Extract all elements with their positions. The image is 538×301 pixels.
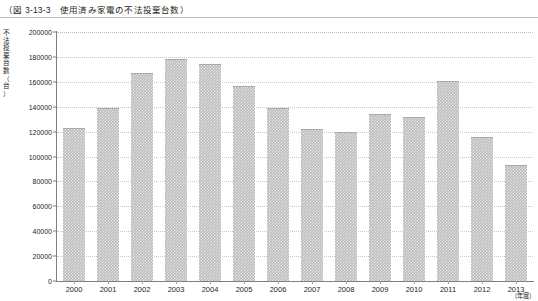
bar	[301, 129, 322, 281]
x-axis-tick-label: 2002	[134, 285, 151, 294]
bar	[437, 81, 458, 281]
bar	[97, 108, 118, 281]
y-axis-tick-label: 180000	[29, 53, 52, 60]
gridline	[57, 132, 533, 133]
y-axis-tick-label: 160000	[29, 78, 52, 85]
x-axis-line	[56, 281, 534, 282]
x-axis-tick-mark	[244, 281, 245, 284]
bar	[267, 108, 288, 281]
gridline	[57, 32, 533, 33]
bar	[403, 117, 424, 281]
bar	[233, 86, 254, 281]
gridline	[57, 82, 533, 83]
gridline	[57, 256, 533, 257]
bar	[505, 165, 526, 281]
y-axis-tick-label: 140000	[29, 103, 52, 110]
x-axis-tick-label: 2009	[372, 285, 389, 294]
y-axis-tick-label: 60000	[33, 203, 52, 210]
x-axis-tick-mark	[414, 281, 415, 284]
figure-container: （図 3-13-3 使用済み家電の不法投棄台数） 不法投棄台数（台） 02000…	[0, 0, 538, 301]
x-axis-tick-mark	[312, 281, 313, 284]
bar	[335, 132, 356, 281]
y-axis-tick-label: 120000	[29, 128, 52, 135]
y-axis-tick-group: 0200004000060000800001000001200001400001…	[0, 0, 56, 301]
x-axis-unit-label: （年度）	[511, 291, 535, 300]
gridline	[57, 107, 533, 108]
y-axis-tick-label: 80000	[33, 178, 52, 185]
x-axis-tick-mark	[108, 281, 109, 284]
x-axis-tick-mark	[346, 281, 347, 284]
x-axis-tick-label: 2012	[474, 285, 491, 294]
y-axis-tick-label: 100000	[29, 153, 52, 160]
x-axis-tick-label: 2003	[168, 285, 185, 294]
x-axis-tick-mark	[448, 281, 449, 284]
plot-area	[57, 32, 533, 281]
gridline	[57, 57, 533, 58]
bar	[199, 64, 220, 281]
x-axis-tick-label: 2011	[440, 285, 456, 294]
x-axis-tick-mark	[380, 281, 381, 284]
x-axis-tick-mark	[210, 281, 211, 284]
x-axis-tick-mark	[142, 281, 143, 284]
gridline	[57, 231, 533, 232]
gridline	[57, 206, 533, 207]
x-axis-tick-label: 2007	[304, 285, 321, 294]
x-axis-tick-label: 2000	[66, 285, 83, 294]
x-axis-tick-label: 2004	[202, 285, 219, 294]
title-divider	[0, 17, 538, 18]
x-axis-tick-mark	[516, 281, 517, 284]
x-axis-tick-mark	[176, 281, 177, 284]
x-axis-tick-label: 2005	[236, 285, 253, 294]
y-axis-tick-label: 20000	[33, 253, 52, 260]
x-axis-tick-mark	[278, 281, 279, 284]
bar	[471, 137, 492, 281]
x-axis-tick-label: 2008	[338, 285, 355, 294]
x-axis-tick-mark	[74, 281, 75, 284]
bar	[131, 73, 152, 281]
x-axis-tick-mark	[482, 281, 483, 284]
gridline	[57, 157, 533, 158]
bar	[63, 128, 84, 281]
y-axis-tick-label: 40000	[33, 228, 52, 235]
y-axis-tick-label: 0	[48, 278, 52, 285]
bar	[165, 59, 186, 281]
x-axis-tick-label: 2001	[100, 285, 117, 294]
x-axis-tick-label: 2006	[270, 285, 287, 294]
y-axis-tick-label: 200000	[29, 29, 52, 36]
bar	[369, 114, 390, 281]
gridline	[57, 181, 533, 182]
x-axis-tick-label: 2010	[406, 285, 423, 294]
